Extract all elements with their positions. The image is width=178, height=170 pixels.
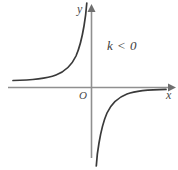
- condition-annotation: k < 0: [107, 38, 137, 54]
- curve-branch-quadrant-ii: [13, 3, 87, 81]
- coordinate-plot: [0, 0, 178, 170]
- inverse-proportion-figure: y x O k < 0: [0, 0, 178, 170]
- origin-label: O: [79, 90, 87, 101]
- x-axis-label: x: [166, 89, 171, 101]
- y-axis-arrow-icon: [88, 4, 96, 12]
- y-axis-label: y: [77, 3, 82, 15]
- curve-branch-quadrant-iv: [96, 92, 166, 166]
- curve-branch-quadrant-iv-stroke: [96, 89, 166, 166]
